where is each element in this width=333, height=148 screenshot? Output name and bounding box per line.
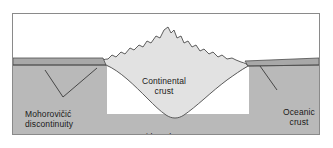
oceanic-crust-left [13, 58, 106, 65]
diagram-frame: Continental crust Lithosphere Mohoroviči… [12, 13, 320, 135]
label-oceanic-crust: Oceanic crust [269, 107, 320, 127]
label-lithosphere: Lithosphere [121, 132, 207, 135]
label-continental-crust: Continental crust [121, 76, 207, 96]
diagram-figure: Continental crust Lithosphere Mohoroviči… [0, 0, 333, 148]
label-mohorovicic-discontinuity: Mohorovičić discontinuity [25, 109, 105, 129]
